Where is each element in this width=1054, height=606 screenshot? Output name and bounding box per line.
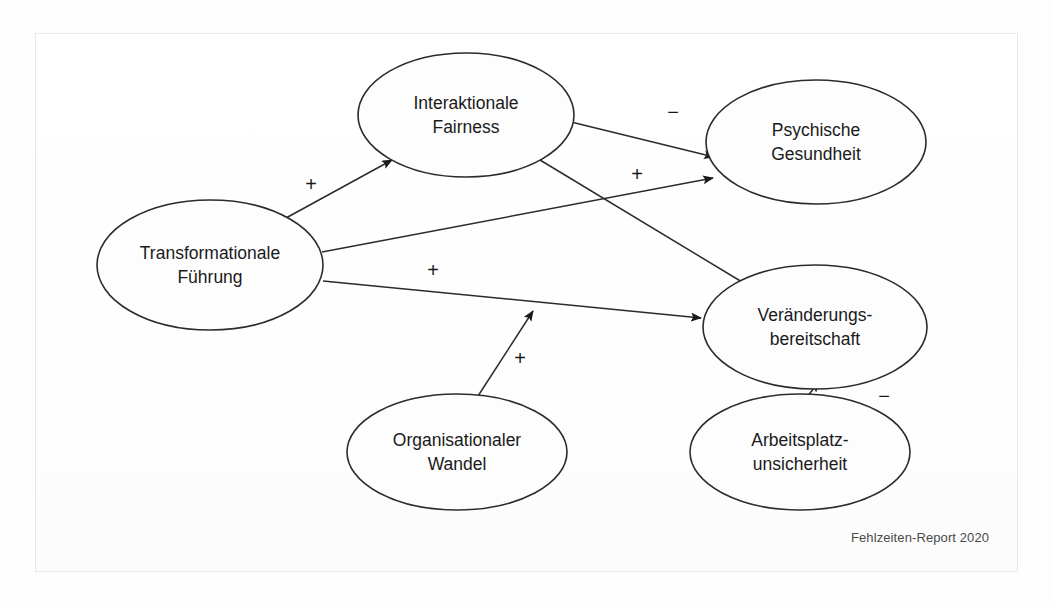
node-shape-veraenderungsbereitschaft: [703, 265, 927, 389]
node-label-transformationale-fuehrung-line2: Führung: [177, 267, 242, 287]
node-shape-organisationaler-wandel: [347, 394, 567, 510]
node-label-interaktionale-fairness-line2: Fairness: [432, 117, 499, 137]
node-shape-psychische-gesundheit: [706, 80, 926, 204]
node-label-organisationaler-wandel-line2: Wandel: [428, 454, 487, 474]
edge-sign-tf-to-vb: +: [427, 259, 439, 281]
edge-tf-to-pg: [322, 178, 713, 252]
edge-tf-to-vb: [323, 281, 701, 318]
node-shape-interaktionale-fairness: [358, 53, 574, 177]
node-label-transformationale-fuehrung-line1: Transformationale: [140, 243, 280, 263]
node-transformationale-fuehrung[interactable]: TransformationaleFührung: [97, 200, 323, 330]
edge-if-to-pg: [567, 121, 714, 157]
node-label-veraenderungsbereitschaft-line1: Veränderungs-: [758, 305, 873, 325]
node-label-veraenderungsbereitschaft-line2: bereitschaft: [770, 329, 861, 349]
node-label-organisationaler-wandel-line1: Organisationaler: [393, 430, 522, 450]
node-label-psychische-gesundheit-line2: Gesundheit: [771, 144, 861, 164]
node-psychische-gesundheit[interactable]: PsychischeGesundheit: [706, 80, 926, 204]
node-label-psychische-gesundheit-line1: Psychische: [772, 120, 861, 140]
node-interaktionale-fairness[interactable]: InteraktionaleFairness: [358, 53, 574, 177]
node-label-arbeitsplatzunsicherheit-line1: Arbeitsplatz-: [751, 430, 848, 450]
node-organisationaler-wandel[interactable]: OrganisationalerWandel: [347, 394, 567, 510]
node-shape-arbeitsplatzunsicherheit: [690, 394, 910, 510]
edge-sign-tf-to-if: +: [305, 173, 317, 195]
figure-container: InteraktionaleFairnessTransformationaleF…: [0, 0, 1054, 606]
nodes-layer: InteraktionaleFairnessTransformationaleF…: [97, 53, 927, 510]
node-veraenderungsbereitschaft[interactable]: Veränderungs-bereitschaft: [703, 265, 927, 389]
node-label-interaktionale-fairness-line1: Interaktionale: [413, 93, 518, 113]
edge-sign-if-to-pg: −: [667, 101, 679, 123]
edge-sign-au-to-vb: −: [878, 385, 890, 407]
edge-tf-to-if: [286, 160, 392, 218]
node-shape-transformationale-fuehrung: [97, 200, 323, 330]
node-label-arbeitsplatzunsicherheit-line2: unsicherheit: [753, 454, 847, 474]
edge-if-to-vb: [540, 160, 752, 288]
source-caption: Fehlzeiten-Report 2020: [851, 530, 989, 545]
node-arbeitsplatzunsicherheit[interactable]: Arbeitsplatz-unsicherheit: [690, 394, 910, 510]
path-diagram: InteraktionaleFairnessTransformationaleF…: [0, 0, 1054, 606]
edge-sign-tf-to-pg: +: [631, 163, 643, 185]
edge-sign-ow-to-vb: +: [514, 347, 526, 369]
